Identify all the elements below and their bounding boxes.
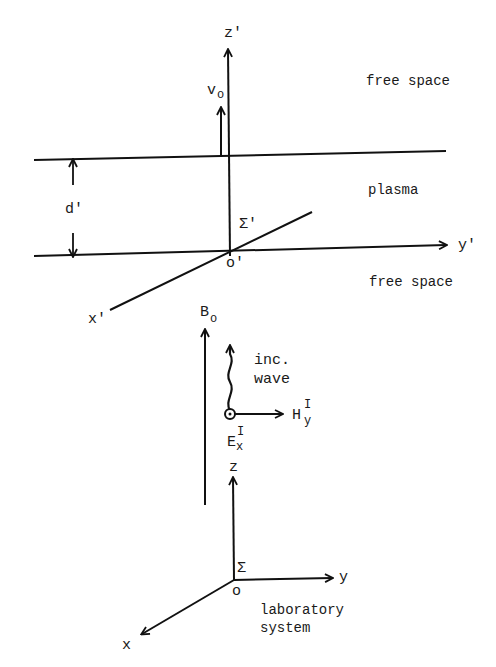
moving-frame-symbol: Σ' — [239, 217, 257, 232]
lab-origin-label: o — [232, 584, 241, 599]
lab-z-axis — [233, 478, 234, 580]
region-label-plasma: plasma — [368, 183, 418, 197]
lab-caption-line1: laboratory — [260, 603, 344, 617]
h-field-superscript: I — [304, 399, 311, 411]
e-field-subscript: x — [236, 441, 243, 453]
e-field-symbol: E — [227, 434, 236, 451]
velocity-symbol: v — [207, 82, 216, 99]
b-field-subscript: o — [210, 313, 217, 325]
z-prime-label: z' — [224, 26, 242, 41]
b-field-symbol: B — [200, 304, 209, 321]
x-prime-axis — [110, 212, 312, 310]
diagram-canvas: z' vo free space plasma free space d' Σ'… — [0, 0, 496, 667]
velocity-label: vo — [207, 83, 216, 98]
lab-x-axis — [142, 580, 234, 634]
incident-wave-line2: wave — [254, 372, 290, 387]
e-field-superscript: I — [237, 426, 244, 438]
h-field-symbol: H — [292, 407, 301, 424]
velocity-subscript: o — [217, 89, 224, 101]
incident-wave-squiggle — [228, 346, 231, 411]
b-field-label: Bo — [200, 305, 209, 320]
thickness-label: d' — [65, 202, 83, 217]
x-prime-label: x' — [88, 312, 106, 327]
lab-x-label: x — [122, 638, 131, 653]
lab-y-axis — [234, 578, 332, 580]
lab-frame-symbol: Σ — [237, 561, 246, 576]
e-field-label: EIx — [227, 435, 236, 450]
region-label-bottom: free space — [369, 275, 453, 289]
h-field-subscript: y — [304, 415, 311, 427]
y-prime-label: y' — [458, 238, 476, 253]
region-label-top: free space — [366, 74, 450, 88]
lab-y-label: y — [339, 570, 348, 585]
plasma-upper-boundary — [34, 151, 446, 160]
moving-origin-label: o' — [226, 256, 244, 271]
h-field-label: HIy — [292, 408, 301, 423]
diagram-lines — [0, 0, 496, 667]
z-prime-axis — [228, 50, 230, 256]
lab-z-label: z — [229, 460, 238, 475]
lab-caption-line2: system — [260, 621, 310, 635]
incident-wave-line1: inc. — [254, 353, 290, 368]
